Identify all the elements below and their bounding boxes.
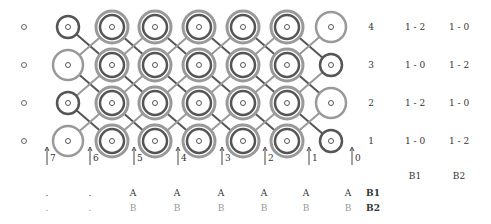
node-small-ring: [57, 92, 79, 114]
b1-value-row-4: 1 - 2: [405, 22, 425, 32]
b2-cell-0: .: [46, 203, 49, 213]
row-label-4: 4: [368, 22, 374, 32]
b1-cell-0: .: [46, 188, 49, 198]
dot-icon: [22, 139, 27, 144]
arrow-label-3: 3: [225, 153, 231, 163]
column-header-b2: B2: [453, 171, 465, 181]
arrow-label-5: 5: [137, 153, 143, 163]
b2-cell-5: B: [261, 203, 268, 213]
node-small-ring: [57, 16, 79, 38]
braid-lattice-diagram: [0, 0, 491, 224]
b1-cell-2: A: [130, 188, 137, 198]
arrow-label-4: 4: [181, 153, 187, 163]
row-label-2: 2: [368, 98, 374, 108]
column-header-b1: B1: [409, 171, 421, 181]
b1-cell-1: .: [89, 188, 92, 198]
b2-cell-7: B: [345, 203, 352, 213]
row-label-1: 1: [368, 136, 374, 146]
node-large-ring: [316, 88, 346, 118]
node-small-ring: [320, 54, 342, 76]
node-large-ring: [316, 12, 346, 42]
b2-value-row-4: 1 - 0: [449, 22, 469, 32]
b1-value-row-1: 1 - 0: [405, 136, 425, 146]
b2-cell-1: .: [89, 203, 92, 213]
node-large-ring: [53, 50, 83, 80]
dot-icon: [22, 63, 27, 68]
b2-cell-4: B: [218, 203, 225, 213]
arrow-label-7: 7: [50, 153, 56, 163]
b1-cell-5: A: [261, 188, 268, 198]
dot-icon: [22, 25, 27, 30]
b2-cell-6: B: [303, 203, 310, 213]
bottom-row-label-b1: B1: [366, 188, 380, 198]
b2-cell-3: B: [174, 203, 181, 213]
b2-value-row-1: 1 - 2: [449, 136, 469, 146]
arrow-label-1: 1: [312, 153, 318, 163]
dot-icon: [22, 101, 27, 106]
b2-value-row-2: 1 - 0: [449, 98, 469, 108]
arrow-label-2: 2: [268, 153, 274, 163]
b1-cell-4: A: [218, 188, 225, 198]
b1-value-row-3: 1 - 0: [405, 60, 425, 70]
arrow-label-0: 0: [355, 153, 361, 163]
node-small-ring: [320, 130, 342, 152]
arrow-label-6: 6: [93, 153, 99, 163]
b1-cell-6: A: [303, 188, 310, 198]
b2-cell-2: B: [130, 203, 137, 213]
b1-cell-3: A: [174, 188, 181, 198]
row-label-3: 3: [368, 60, 374, 70]
b2-value-row-3: 1 - 2: [449, 60, 469, 70]
b1-cell-7: A: [345, 188, 352, 198]
bottom-row-label-b2: B2: [366, 203, 380, 213]
node-large-ring: [53, 126, 83, 156]
b1-value-row-2: 1 - 2: [405, 98, 425, 108]
